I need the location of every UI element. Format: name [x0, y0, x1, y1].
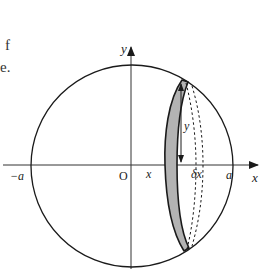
sphere-volume-diagram	[0, 0, 264, 269]
diagram-canvas: f e. y x O −a a x y δx	[0, 0, 264, 269]
x-axis-label: x	[252, 171, 258, 184]
delta-x-label: δx	[191, 168, 202, 180]
dashed-curve-outer	[192, 86, 203, 246]
y-axis-label: y	[121, 42, 127, 55]
dashed-curve-inner	[186, 83, 196, 249]
y-height-label: y	[184, 120, 189, 132]
neg-a-label: −a	[10, 170, 24, 182]
x-position-label: x	[146, 168, 151, 180]
origin-label: O	[119, 170, 128, 182]
pos-a-label: a	[226, 169, 232, 181]
